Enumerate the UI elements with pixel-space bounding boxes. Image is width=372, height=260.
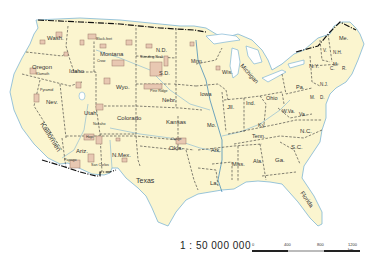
state-label: Iowa <box>200 91 213 97</box>
scale-segment-3 <box>324 250 360 252</box>
reservation-label: Navaho <box>93 122 105 126</box>
reservation-label: Pyramid <box>40 88 53 92</box>
state-label: Ala. <box>253 158 263 164</box>
reservation-label: Papago <box>64 158 76 162</box>
reservation-label: Crow <box>97 59 106 63</box>
reservation-label: Standing Rock <box>140 55 164 59</box>
state-label: S.D. <box>159 70 170 76</box>
state-label: Wyo. <box>116 84 130 90</box>
state-label: Miss. <box>232 161 245 167</box>
state-label: Colorado <box>117 115 142 121</box>
state-label: Utah <box>84 110 97 116</box>
scale-tick-0: 0 <box>252 242 254 247</box>
state-label: W.Va. <box>282 108 295 114</box>
state-label: Okla. <box>169 145 183 151</box>
state-label: Kansas <box>166 119 186 125</box>
scale-segment-1 <box>252 250 288 252</box>
reservation-label: Osage <box>171 137 182 141</box>
state-label: Ky. <box>258 122 266 128</box>
state-label: Idaho <box>69 68 85 74</box>
small-state-label: D. <box>320 95 325 100</box>
reservation-label: Black-feet <box>96 37 112 41</box>
state-label: Pa. <box>296 84 305 90</box>
state-label: Montana <box>100 51 124 57</box>
reservation-label: Hopi <box>86 135 94 139</box>
reservation-label: Pine Ridge <box>150 89 168 93</box>
reservation-label: San Carlos <box>91 163 109 167</box>
state-label: N.C. <box>300 128 312 134</box>
state-label: N.Y. <box>309 63 319 69</box>
state-label: N.Mex. <box>112 152 131 158</box>
state-label: Ga. <box>275 157 285 163</box>
state-label: Va. <box>299 111 306 117</box>
small-state-label: M. <box>310 95 315 100</box>
state-label: Oregon <box>32 64 52 70</box>
state-label: Jll. <box>227 104 235 110</box>
small-state-label: V. <box>323 48 327 53</box>
state-label: Nev. <box>46 99 58 105</box>
state-label: Wash. <box>47 35 64 41</box>
state-label: Tenn. <box>252 133 266 139</box>
state-label: Nebr. <box>162 97 177 103</box>
state-label: Ohio <box>266 95 278 101</box>
scale-tick-400: 400 <box>284 242 291 247</box>
scale-segment-2 <box>288 250 324 252</box>
state-label: Ariz. <box>76 148 88 154</box>
great-salt-lake <box>79 92 85 100</box>
small-state-label: N.H. <box>333 50 342 55</box>
state-label: Ind. <box>246 100 256 106</box>
state-label: Texas <box>136 177 155 184</box>
state-label: Wis. <box>222 69 233 75</box>
state-label: Me. <box>339 35 349 41</box>
state-label: Minn. <box>191 58 203 64</box>
state-label: N.D. <box>156 47 167 53</box>
state-label: La. <box>210 180 219 186</box>
small-state-label: N.J. <box>320 82 328 87</box>
scale-tick-800: 800 <box>317 242 324 247</box>
small-state-label: R. <box>342 66 347 71</box>
scale-ratio: 1 : 50 000 000 <box>180 240 251 251</box>
land-mass <box>10 18 364 226</box>
state-label: Ark. <box>211 147 221 153</box>
small-state-label: C. <box>330 66 335 71</box>
scale-bar: 0 400 800 1200 km <box>252 242 360 254</box>
state-label: S.C. <box>291 144 303 150</box>
state-label: Mo. <box>207 122 217 128</box>
us-map: Wash.OregonIdahoMontanaWyo.N.D.S.D.Nebr.… <box>0 0 372 260</box>
reservation-label: Klamath <box>36 72 49 76</box>
